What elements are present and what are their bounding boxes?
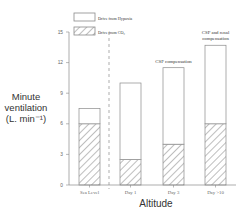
annotation-text: compensation	[202, 36, 229, 41]
y-axis-label-line-3: (L. min⁻¹)	[0, 113, 52, 124]
bar-day-10	[205, 45, 226, 185]
y-tick-label: 6	[60, 121, 63, 126]
y-tick-label: 0	[60, 183, 63, 188]
x-tick-label: Day 1	[125, 190, 137, 195]
x-axis-label: Altitude	[96, 198, 216, 209]
bar-segment-open	[120, 83, 141, 160]
bars	[79, 45, 226, 185]
annotation-text: CSF and renal	[202, 30, 230, 35]
bar-sea-level	[79, 109, 100, 186]
bar-segment-open	[163, 68, 184, 145]
y-tick-label: 3	[60, 152, 63, 157]
bar-segment-hatched	[120, 160, 141, 186]
legend-label: Drive from Hypoxia	[98, 16, 132, 21]
y-axis-label: Minute ventilation (L. min⁻¹)	[0, 91, 52, 124]
bar-segment-hatched	[79, 124, 100, 185]
legend-swatch-open	[74, 13, 95, 21]
y-axis-label-line-1: Minute	[0, 91, 52, 102]
bar-day-3	[163, 68, 184, 185]
legend-label: Drive from CO₂	[98, 30, 126, 35]
bar-segment-open	[205, 45, 226, 124]
x-axis-labels: Sea LevelDay 1Day 3Day >10	[80, 185, 224, 195]
x-tick-label: Day >10	[207, 190, 224, 195]
bar-segment-hatched	[163, 144, 184, 185]
legend: Drive from HypoxiaDrive from CO₂	[74, 13, 132, 35]
x-tick-label: Sea Level	[80, 190, 100, 195]
bar-segment-hatched	[205, 124, 226, 185]
x-tick-label: Day 3	[168, 190, 180, 195]
y-tick-label: 15	[58, 30, 64, 35]
y-axis-label-line-2: ventilation	[0, 102, 52, 113]
bar-segment-open	[79, 109, 100, 124]
annotation-text: CSF compensation	[155, 59, 192, 64]
y-tick-label: 12	[58, 60, 64, 65]
y-tick-label: 9	[60, 91, 63, 96]
bar-day-1	[120, 83, 141, 185]
legend-swatch-hatched	[74, 27, 95, 35]
